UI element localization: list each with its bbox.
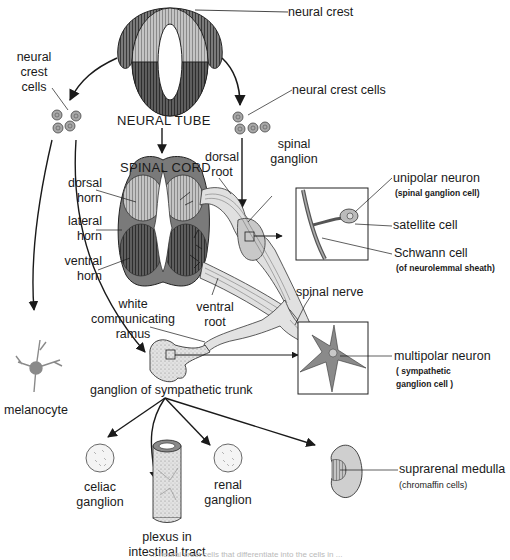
label-line: horn [60,191,102,206]
label-line: root [190,315,240,330]
label-neural-crest-cells-left: neural crest cells [14,50,54,95]
label-line: ramus [85,327,181,342]
label-suprarenal-medulla: suprarenal medulla [399,462,505,477]
label-line: spinal [264,137,324,152]
label-line: white [85,297,181,312]
label-dorsal-root: dorsal root [200,150,244,180]
label-suprarenal-medulla-sub: (chromaffin cells) [399,480,467,491]
label-line: communicating [85,312,181,327]
label-line: cells [14,80,54,95]
label-renal-ganglion: renal ganglion [200,478,256,508]
intestinal-tube [153,440,181,523]
label-unipolar-neuron: unipolar neuron [393,171,480,186]
suprarenal-gland [331,445,362,497]
label-line: ventral [56,254,102,269]
label-line: ganglion [200,493,256,508]
label-neural-crest-cells-right: neural crest cells [292,83,386,98]
label-celiac-ganglion: celiac ganglion [72,480,128,510]
sympathetic-ganglion [150,340,210,382]
label-melanocyte: melanocyte [4,403,68,418]
label-lateral-horn: lateral horn [58,214,102,244]
label-dorsal-horn: dorsal horn [60,176,102,206]
label-line: ganglion [72,495,128,510]
label-line: horn [58,229,102,244]
label-line: ganglion cell ) [396,379,453,390]
neural-crest-diagram: neural crest neural crest cells neural c… [0,0,510,560]
label-neural-crest: neural crest [288,5,353,20]
celiac-ganglion [86,444,114,472]
neural-tube [118,8,222,116]
label-unipolar-neuron-sub: (spinal ganglion cell) [395,188,480,199]
label-white-communicating-ramus: white communicating ramus [85,297,181,342]
label-line: renal [200,478,256,493]
label-ganglion-sympathetic-trunk: ganglion of sympathetic trunk [90,383,253,398]
label-multipolar-neuron: multipolar neuron [394,349,491,364]
label-line: dorsal [200,150,244,165]
label-line: horn [56,269,102,284]
melanocyte [16,340,62,392]
label-line: plexus in [122,530,212,545]
multipolar-neuron-inset [298,322,368,394]
label-satellite-cell: satellite cell [393,218,458,233]
label-line: lateral [58,214,102,229]
label-line: crest [14,65,54,80]
label-line: dorsal [60,176,102,191]
label-line: ( sympathetic [396,366,453,377]
label-neural-tube: NEURAL TUBE [117,113,211,128]
label-spinal-cord: SPINAL CORD [120,160,211,175]
label-line: ganglion [264,152,324,167]
label-ventral-horn: ventral horn [56,254,102,284]
spinal-cord [118,156,209,286]
label-schwann-cell: Schwann cell [394,246,468,261]
label-spinal-nerve: spinal nerve [296,285,363,300]
label-multipolar-neuron-sub: ( sympathetic ganglion cell ) [396,366,453,390]
label-line: celiac [72,480,128,495]
partial-caption: ... neural crest cells that differentiat… [150,550,510,560]
label-line: ventral [190,300,240,315]
label-ventral-root: ventral root [190,300,240,330]
label-schwann-cell-sub: (of neurolemmal sheath) [396,263,495,274]
label-spinal-ganglion: spinal ganglion [264,137,324,167]
label-line: neural [14,50,54,65]
label-line: root [200,165,244,180]
renal-ganglion [214,444,242,472]
